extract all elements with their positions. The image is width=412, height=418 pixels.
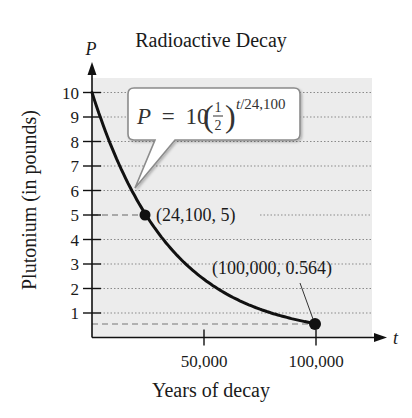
x-tick-label: 100,000 [288, 352, 343, 371]
svg-text:P = 10: P = 10 [136, 104, 209, 129]
point-100000-0564 [309, 318, 321, 330]
y-tick-label: 7 [71, 157, 80, 176]
paren-right: ) [225, 98, 236, 134]
point-label-100000: (100,000, 0.564) [212, 258, 332, 279]
x-axis-arrow-icon [374, 333, 387, 342]
equation-exponent: t/24,100 [236, 96, 286, 112]
y-tick-label: 3 [71, 255, 80, 274]
x-tick-labels: 50,000100,000 [181, 352, 344, 371]
point-label-24100: (24,100, 5) [156, 205, 236, 226]
y-axis-title: Plutonium (in pounds) [18, 110, 41, 290]
y-tick-label: 6 [71, 182, 80, 201]
y-tick-label: 4 [71, 231, 80, 250]
equation-eq: = [162, 104, 175, 129]
x-axis-title: Years of decay [152, 379, 270, 402]
y-axis-variable: P [85, 39, 97, 59]
chart: 12345678910 50,000100,000 (24,100, 5) (1… [0, 0, 412, 418]
exp-rest: /24,100 [240, 96, 285, 112]
y-tick-label: 1 [71, 304, 80, 323]
x-tick-label: 50,000 [181, 352, 228, 371]
y-tick-label: 5 [71, 206, 80, 225]
point-24100-5 [140, 210, 151, 221]
paren-left: ( [203, 98, 214, 134]
equation-lhs: P [136, 104, 151, 129]
y-tick-label: 8 [71, 133, 80, 152]
chart-title: Radioactive Decay [135, 29, 287, 52]
y-tick-label: 10 [62, 84, 79, 103]
fraction-denominator: 2 [215, 118, 222, 133]
y-tick-label: 2 [71, 280, 80, 299]
y-tick-label: 9 [71, 108, 80, 127]
y-axis-arrow-icon [88, 62, 97, 75]
fraction-numerator: 1 [215, 100, 222, 115]
y-tick-labels: 12345678910 [62, 84, 80, 324]
x-axis-variable: t [393, 328, 399, 348]
